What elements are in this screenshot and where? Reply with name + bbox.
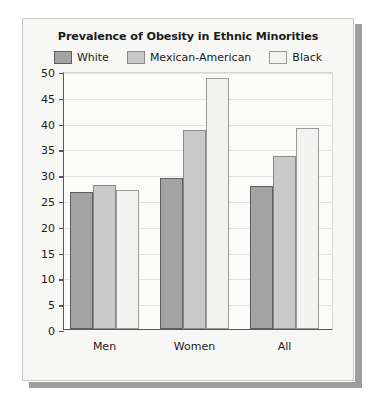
y-tick-label-20: 20 xyxy=(41,221,55,234)
y-tick-mark-40 xyxy=(59,125,64,126)
y-tick-label-40: 40 xyxy=(41,118,55,131)
y-tick-label-5: 5 xyxy=(48,299,55,312)
gridline-y-45 xyxy=(64,99,332,100)
y-tick-label-30: 30 xyxy=(41,170,55,183)
bar-men-black[interactable] xyxy=(116,190,139,329)
plot-area: 05101520253035404550MenWomenAll xyxy=(63,72,333,330)
legend-item-white[interactable]: White xyxy=(54,51,109,64)
y-tick-mark-30 xyxy=(59,176,64,177)
legend-swatch-white xyxy=(54,51,72,64)
y-tick-mark-20 xyxy=(59,228,64,229)
plot-inner: 05101520253035404550MenWomenAll xyxy=(64,73,332,329)
y-tick-label-0: 0 xyxy=(48,325,55,338)
y-tick-label-50: 50 xyxy=(41,67,55,80)
bar-all-mexican-american[interactable] xyxy=(273,156,296,329)
gridline-y-40 xyxy=(64,125,332,126)
bar-women-black[interactable] xyxy=(206,78,229,329)
x-axis-label-all: All xyxy=(278,340,292,353)
bar-all-white[interactable] xyxy=(250,186,273,329)
bar-all-black[interactable] xyxy=(296,128,319,329)
y-tick-mark-45 xyxy=(59,99,64,100)
y-tick-mark-10 xyxy=(59,279,64,280)
y-tick-label-25: 25 xyxy=(41,196,55,209)
y-tick-mark-0 xyxy=(59,331,64,332)
bar-women-white[interactable] xyxy=(160,178,183,329)
y-tick-mark-50 xyxy=(59,73,64,74)
y-tick-label-10: 10 xyxy=(41,273,55,286)
bar-men-mexican-american[interactable] xyxy=(93,185,116,329)
gridline-y-50 xyxy=(64,73,332,74)
legend-item-black[interactable]: Black xyxy=(269,51,322,64)
legend-label: White xyxy=(77,51,109,64)
chart-title: Prevalence of Obesity in Ethnic Minoriti… xyxy=(23,30,353,43)
legend-item-mexican-american[interactable]: Mexican-American xyxy=(127,51,251,64)
y-tick-label-45: 45 xyxy=(41,92,55,105)
x-axis-label-women: Women xyxy=(174,340,215,353)
y-tick-mark-5 xyxy=(59,305,64,306)
y-tick-label-15: 15 xyxy=(41,247,55,260)
y-tick-label-35: 35 xyxy=(41,144,55,157)
panel-drop-shadow-bottom xyxy=(29,382,362,388)
bar-men-white[interactable] xyxy=(70,192,93,329)
panel-drop-shadow-right xyxy=(355,24,362,387)
y-tick-mark-25 xyxy=(59,202,64,203)
y-tick-mark-15 xyxy=(59,254,64,255)
legend-label: Black xyxy=(292,51,322,64)
chart-legend: WhiteMexican-AmericanBlack xyxy=(23,51,353,64)
y-tick-mark-35 xyxy=(59,150,64,151)
legend-swatch-mexican-american xyxy=(127,51,145,64)
x-axis-label-men: Men xyxy=(93,340,116,353)
legend-swatch-black xyxy=(269,51,287,64)
legend-label: Mexican-American xyxy=(150,51,251,64)
bar-women-mexican-american[interactable] xyxy=(183,130,206,329)
chart-panel: Prevalence of Obesity in Ethnic Minoriti… xyxy=(22,18,354,381)
